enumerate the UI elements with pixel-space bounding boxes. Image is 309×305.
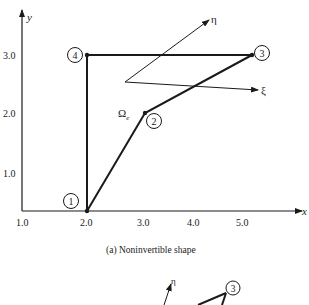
svg-text:3: 3 (260, 48, 265, 59)
y-tick-1: 1.0 (3, 168, 16, 179)
y-tick-3: 3.0 (3, 50, 16, 61)
node-dot-3 (250, 53, 254, 57)
x-tick-4: 4.0 (187, 217, 200, 228)
node-dot-1 (85, 209, 89, 213)
y-tick-2: 2.0 (3, 108, 16, 119)
node-dot-4 (85, 53, 89, 57)
x-tick-1: 1.0 (16, 217, 29, 228)
eta-axis (125, 20, 209, 82)
svg-text:4: 4 (73, 50, 78, 61)
x-tick-3: 3.0 (137, 217, 150, 228)
svg-text:3: 3 (231, 284, 236, 294)
node-dot-2 (143, 111, 147, 115)
figure-caption: (a) Noninvertible shape (106, 245, 196, 256)
x-tick-5: 5.0 (236, 217, 249, 228)
element-boundary (87, 55, 252, 211)
svg-text:2: 2 (152, 116, 157, 127)
eta-label: η (211, 13, 217, 25)
svg-text:1: 1 (69, 196, 74, 207)
next-node-label-3: 3 (226, 281, 240, 295)
x-axis-label: x (301, 205, 307, 217)
x-tick-2: 2.0 (80, 217, 93, 228)
node-label-4: 4 (68, 48, 83, 63)
node-label-3: 3 (255, 46, 270, 61)
next-eta-label: η (171, 276, 176, 286)
element-label: Ωe (118, 107, 129, 122)
y-axis-label: y (26, 11, 32, 23)
xi-label: ξ (261, 84, 266, 97)
node-label-1: 1 (64, 194, 79, 209)
next-eta-axis (164, 284, 171, 305)
diagram-canvas: y x 3.0 2.0 1.0 1.0 2.0 3.0 4.0 5.0 1 2 … (0, 0, 309, 305)
node-label-2: 2 (147, 114, 162, 129)
